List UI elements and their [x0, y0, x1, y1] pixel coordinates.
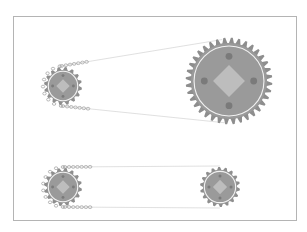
bolt-hole-icon — [62, 196, 65, 199]
bolt-hole-icon — [226, 102, 233, 109]
chain-link — [42, 189, 45, 192]
bolt-hole-icon — [230, 185, 233, 188]
bolt-hole-icon — [72, 85, 75, 88]
bolt-hole-icon — [51, 85, 54, 88]
chain-link — [51, 67, 54, 70]
bolt-hole-icon — [218, 197, 221, 200]
chain-link — [41, 85, 44, 88]
bolt-hole-icon — [250, 78, 257, 85]
bolt-hole-icon — [72, 186, 75, 189]
chain-link — [54, 167, 57, 170]
chain-link — [42, 78, 45, 81]
bolt-hole-icon — [201, 78, 208, 85]
chain-link — [54, 204, 57, 207]
chain-link — [44, 196, 47, 199]
bolt-hole-icon — [62, 95, 65, 98]
bolt-hole-icon — [226, 53, 233, 60]
chain-link — [48, 201, 51, 204]
bottom-drive-driven-sprocket — [200, 167, 240, 207]
bolt-hole-icon — [51, 186, 54, 189]
top-drive-driven-sprocket — [186, 38, 273, 125]
chain-link — [46, 72, 49, 75]
bolt-hole-icon — [62, 74, 65, 77]
sprocket-diagram-canvas — [0, 0, 307, 232]
bolt-hole-icon — [62, 175, 65, 178]
bolt-hole-icon — [218, 174, 221, 177]
top-drive-lower-chain — [61, 105, 225, 123]
chain-link — [43, 92, 46, 95]
chain-link — [47, 98, 50, 101]
bottom-drive-upper-chain — [63, 165, 220, 168]
bottom-drive-lower-chain — [63, 206, 220, 209]
bolt-hole-icon — [207, 185, 210, 188]
chain-link — [52, 103, 55, 106]
bottom-drive-driver-sprocket — [44, 168, 82, 206]
